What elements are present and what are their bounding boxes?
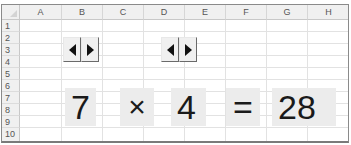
spinner-multiplier[interactable] bbox=[161, 37, 197, 62]
row-header-8[interactable]: 8 bbox=[2, 104, 20, 116]
arrow-right-icon bbox=[87, 44, 94, 56]
equals-cell[interactable]: = bbox=[226, 88, 260, 126]
arrow-right-icon bbox=[185, 44, 192, 56]
row-header-7[interactable]: 7 bbox=[2, 92, 20, 104]
grid-line bbox=[20, 67, 348, 68]
grid-line bbox=[20, 79, 348, 80]
column-header-a[interactable]: A bbox=[20, 5, 62, 20]
grid-line bbox=[266, 20, 267, 141]
decrement-button[interactable] bbox=[63, 37, 81, 62]
spinner-multiplicand[interactable] bbox=[63, 37, 99, 62]
column-header-d[interactable]: D bbox=[144, 5, 185, 20]
spreadsheet: A B C D E F G H 1 2 3 4 5 6 7 8 9 10 bbox=[1, 4, 349, 143]
operator-cell[interactable]: × bbox=[120, 88, 154, 126]
row-header-1[interactable]: 1 bbox=[2, 20, 20, 32]
grid-line bbox=[61, 20, 62, 141]
decrement-button[interactable] bbox=[161, 37, 179, 62]
column-header-c[interactable]: C bbox=[103, 5, 144, 20]
select-all-corner[interactable] bbox=[2, 5, 20, 20]
grid-line bbox=[20, 127, 348, 128]
arrow-left-icon bbox=[69, 44, 76, 56]
row-header-9[interactable]: 9 bbox=[2, 116, 20, 128]
row-header-3[interactable]: 3 bbox=[2, 44, 20, 56]
operand1-cell[interactable]: 7 bbox=[65, 88, 96, 126]
operand2-cell[interactable]: 4 bbox=[171, 88, 206, 126]
row-header-10[interactable]: 10 bbox=[2, 128, 20, 142]
row-header-5[interactable]: 5 bbox=[2, 68, 20, 80]
column-header-e[interactable]: E bbox=[185, 5, 226, 20]
grid-line bbox=[20, 31, 348, 32]
row-header-4[interactable]: 4 bbox=[2, 56, 20, 68]
column-header-h[interactable]: H bbox=[308, 5, 349, 20]
arrow-left-icon bbox=[167, 44, 174, 56]
row-header-6[interactable]: 6 bbox=[2, 80, 20, 92]
grid-line bbox=[102, 20, 103, 141]
row-header-2[interactable]: 2 bbox=[2, 32, 20, 44]
increment-button[interactable] bbox=[179, 37, 197, 62]
column-header-f[interactable]: F bbox=[226, 5, 267, 20]
result-cell[interactable]: 28 bbox=[272, 88, 336, 126]
column-header-b[interactable]: B bbox=[62, 5, 103, 20]
column-header-g[interactable]: G bbox=[267, 5, 308, 20]
increment-button[interactable] bbox=[81, 37, 99, 62]
